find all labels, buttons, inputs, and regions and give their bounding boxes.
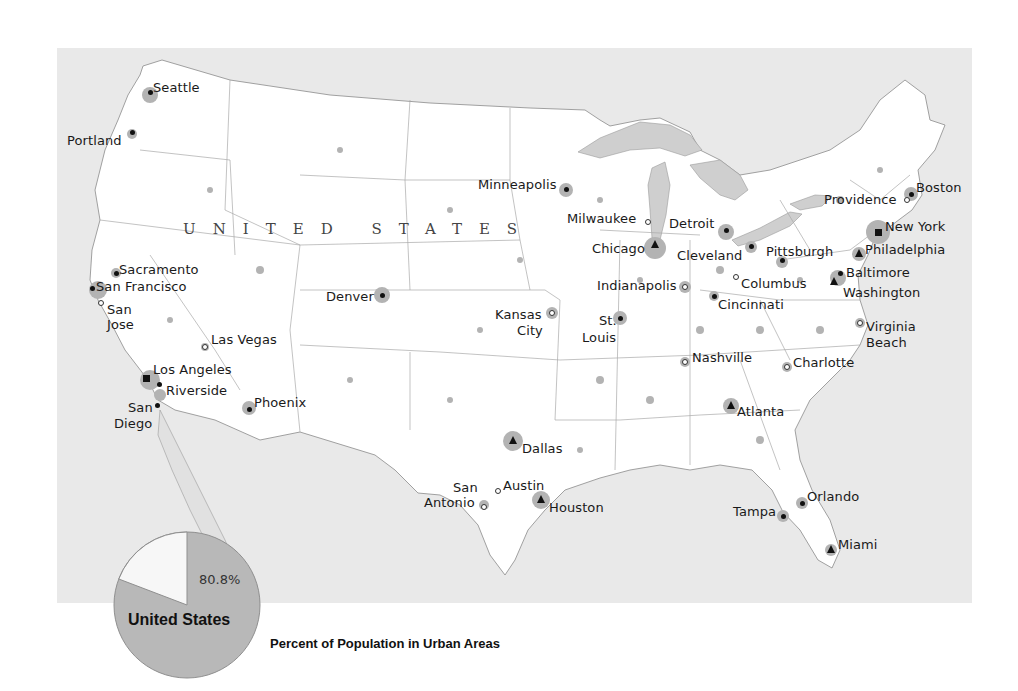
- city-marker-triangle-icon: [651, 240, 659, 248]
- city-marker-dot-icon: [724, 228, 729, 233]
- city-marker-triangle-icon: [727, 401, 735, 409]
- city-marker-open-circle-icon: [495, 488, 501, 494]
- city-label: Denver: [326, 290, 374, 304]
- city-marker-open-circle-icon: [682, 284, 688, 290]
- city-marker-open-circle-icon: [98, 300, 104, 306]
- city-label: Atlanta: [737, 405, 784, 419]
- city-marker-square-icon: [875, 229, 882, 236]
- city-marker-open-circle-icon: [682, 359, 688, 365]
- us-map: [57, 48, 972, 603]
- city-marker-open-circle-icon: [784, 364, 790, 370]
- map-frame: SeattlePortlandSacramentoSan FranciscoSa…: [57, 48, 972, 603]
- city-label: Virginia: [866, 320, 916, 334]
- city-marker-dot-icon: [749, 244, 754, 249]
- city-label: Seattle: [153, 81, 200, 95]
- city-label: Riverside: [166, 384, 227, 398]
- city-marker-open-circle-icon: [645, 219, 651, 225]
- city-label: St.: [599, 314, 617, 328]
- city-marker-triangle-icon: [509, 436, 517, 444]
- city-label: Washington: [843, 286, 920, 300]
- city-marker-dot-icon: [148, 90, 153, 95]
- city-label: Chicago: [592, 242, 645, 256]
- city-marker-dot-icon: [564, 187, 569, 192]
- city-label: New York: [885, 220, 945, 234]
- city-label: Boston: [916, 181, 962, 195]
- city-label: Austin: [503, 479, 544, 493]
- city-label: Portland: [67, 134, 122, 148]
- legend-title: Percent of Population in Urban Areas: [270, 636, 500, 651]
- city-label: Pittsburgh: [766, 245, 833, 259]
- city-marker-dot-icon: [157, 382, 162, 387]
- city-marker-dot-icon: [380, 293, 385, 298]
- city-label: Columbus: [741, 277, 807, 291]
- city-label: City: [517, 324, 543, 338]
- city-label: Nashville: [692, 351, 752, 365]
- country-label: UNITED STATES: [183, 220, 534, 238]
- city-marker-open-circle-icon: [549, 310, 555, 316]
- city-marker-dot-icon: [838, 271, 843, 276]
- city-label: Cincinnati: [718, 298, 784, 312]
- city-label: Los Angeles: [153, 363, 232, 377]
- city-label: Antonio: [424, 496, 475, 510]
- city-label: Sacramento: [119, 263, 199, 277]
- city-label: Baltimore: [846, 266, 910, 280]
- city-marker-dot-icon: [800, 501, 805, 506]
- city-marker-open-circle-icon: [857, 320, 863, 326]
- city-marker-dot-icon: [155, 403, 160, 408]
- city-label: Beach: [866, 336, 907, 350]
- city-label: Charlotte: [793, 356, 854, 370]
- city-label: Detroit: [669, 217, 715, 231]
- city-label: Providence: [824, 193, 897, 207]
- city-label: Miami: [838, 538, 878, 552]
- city-label: Diego: [114, 417, 152, 431]
- city-label: Dallas: [522, 442, 563, 456]
- city-marker-open-circle-icon: [481, 504, 487, 510]
- city-label: San: [128, 401, 153, 415]
- city-marker-dot-icon: [247, 407, 252, 412]
- city-marker-dot-icon: [90, 286, 95, 291]
- pie-value-label: 80.8%: [199, 572, 240, 587]
- city-label: Philadelphia: [865, 243, 945, 257]
- city-label: Tampa: [733, 505, 776, 519]
- city-marker-open-circle-icon: [202, 344, 208, 350]
- city-marker-dot-icon: [909, 192, 914, 197]
- city-label: Indianapolis: [597, 279, 677, 293]
- city-label: Cleveland: [677, 249, 742, 263]
- city-marker-square-icon: [143, 375, 150, 382]
- urban-population-pie-chart: [112, 530, 262, 680]
- city-marker-open-circle-icon: [733, 274, 739, 280]
- city-label: Houston: [549, 501, 604, 515]
- city-label: Phoenix: [254, 396, 306, 410]
- pie-country-label: United States: [128, 611, 230, 629]
- city-marker-triangle-icon: [855, 249, 863, 257]
- city-marker-dot-icon: [130, 130, 135, 135]
- city-marker-triangle-icon: [827, 545, 835, 553]
- city-label: San Francisco: [96, 280, 187, 294]
- city-marker-dot-icon: [114, 271, 119, 276]
- city-marker-open-circle-icon: [904, 197, 910, 203]
- city-marker-dot-icon: [712, 294, 717, 299]
- city-marker-dot-icon: [618, 316, 623, 321]
- city-label: Kansas: [495, 308, 542, 322]
- city-label: Minneapolis: [478, 178, 557, 192]
- city-label: San: [107, 303, 132, 317]
- city-marker-triangle-icon: [537, 495, 545, 503]
- city-label: San: [453, 481, 478, 495]
- city-marker-dot-icon: [781, 514, 786, 519]
- city-label: Jose: [107, 318, 134, 332]
- city-label: Las Vegas: [211, 333, 277, 347]
- city-label: Louis: [582, 331, 616, 345]
- city-label: Milwaukee: [567, 212, 636, 226]
- city-label: Orlando: [807, 490, 859, 504]
- city-marker-triangle-icon: [830, 277, 838, 285]
